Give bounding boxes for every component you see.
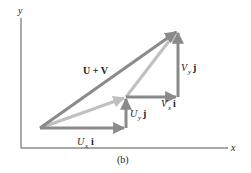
x-axis-label: x: [230, 142, 236, 153]
svg-text:j: j: [142, 108, 146, 119]
label-uy: U y j: [130, 108, 146, 122]
vector-v: [126, 32, 176, 97]
svg-text:x: x: [84, 142, 89, 150]
y-axis-label: y: [17, 5, 23, 16]
svg-text:i: i: [173, 98, 176, 109]
label-sum: U + V: [83, 65, 109, 76]
svg-text:x: x: [167, 104, 172, 112]
vector-u: [40, 98, 124, 128]
svg-text:U: U: [130, 108, 138, 119]
svg-text:U: U: [77, 136, 85, 147]
svg-text:i: i: [91, 136, 94, 147]
vector-addition-diagram: y x U + V U x i U y j V x i V y j (b): [0, 0, 251, 173]
label-vy: V y j: [181, 62, 196, 76]
svg-text:y: y: [187, 68, 192, 76]
label-vx: V x i: [161, 98, 176, 112]
svg-text:j: j: [192, 62, 196, 73]
vector-sum: [40, 32, 176, 128]
figure-caption: (b): [117, 154, 129, 166]
axes: y x: [17, 5, 236, 153]
svg-text:y: y: [137, 114, 142, 122]
